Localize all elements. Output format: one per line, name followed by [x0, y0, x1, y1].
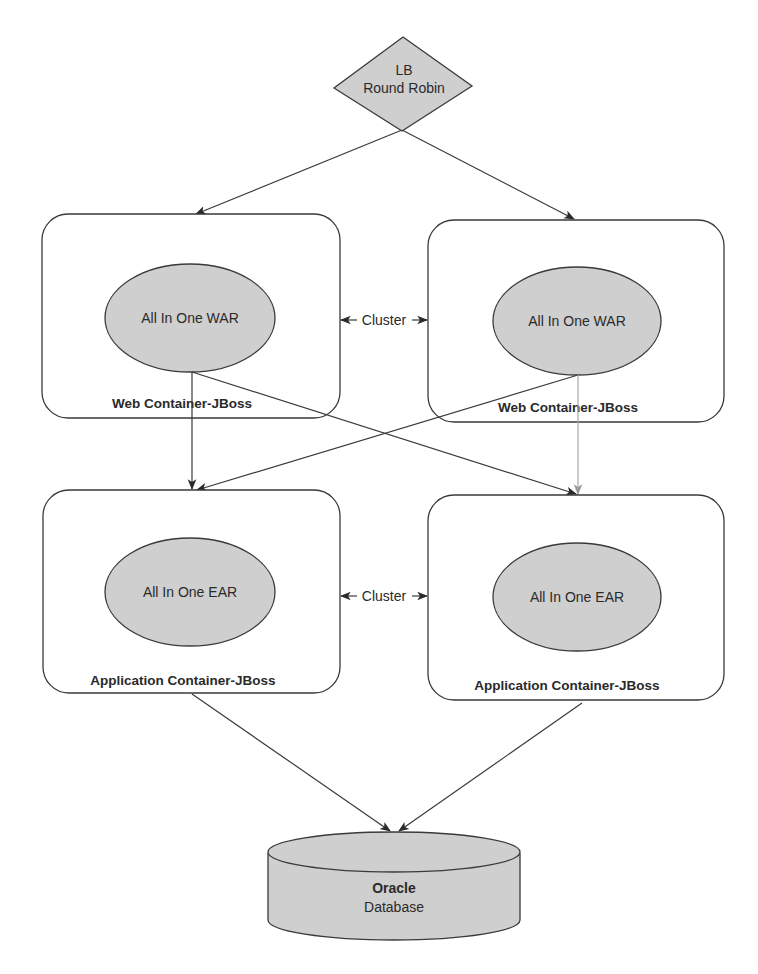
war-artifact-1-label: All In One WAR	[141, 310, 239, 326]
load-balancer-node[interactable]: LB Round Robin	[334, 37, 472, 131]
app-container-1-label: Application Container-JBoss	[90, 673, 275, 688]
web-container-2[interactable]: All In One WAR Web Container-JBoss	[428, 220, 724, 422]
web-container-2-label: Web Container-JBoss	[498, 400, 638, 415]
web-container-1[interactable]: All In One WAR Web Container-JBoss	[42, 214, 340, 418]
edge-lb-to-web-1	[196, 130, 402, 214]
ear-artifact-1-label: All In One EAR	[143, 584, 237, 600]
edge-lb-to-web-2	[402, 130, 574, 219]
cluster-web-label: Cluster	[362, 312, 407, 328]
cluster-app: Cluster	[341, 588, 427, 604]
edge-app-2-to-db	[399, 703, 582, 831]
ear-artifact-2-label: All In One EAR	[530, 589, 624, 605]
database-node[interactable]: Oracle Database	[268, 832, 520, 940]
database-subtitle: Database	[364, 899, 424, 915]
cluster-web: Cluster	[341, 312, 427, 328]
architecture-diagram: LB Round Robin All In One WAR Web Contai…	[0, 0, 758, 974]
load-balancer-label-line2: Round Robin	[363, 80, 445, 96]
load-balancer-label-line1: LB	[395, 62, 412, 78]
database-cylinder-top	[268, 832, 520, 872]
database-title: Oracle	[372, 880, 416, 896]
cluster-app-label: Cluster	[362, 588, 407, 604]
war-artifact-2-label: All In One WAR	[528, 313, 626, 329]
app-container-2-label: Application Container-JBoss	[474, 678, 659, 693]
web-container-1-label: Web Container-JBoss	[112, 396, 252, 411]
app-container-2[interactable]: All In One EAR Application Container-JBo…	[428, 495, 724, 700]
app-container-1[interactable]: All In One EAR Application Container-JBo…	[43, 490, 340, 693]
edge-app-1-to-db	[192, 694, 390, 831]
